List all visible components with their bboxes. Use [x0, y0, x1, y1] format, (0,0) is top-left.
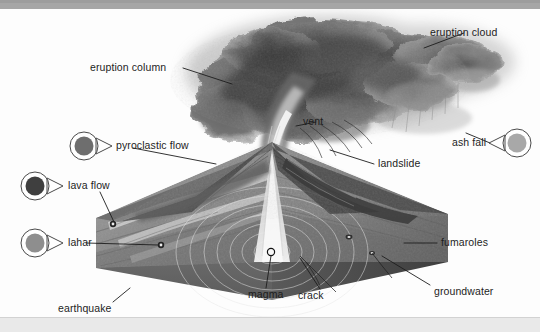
label-earthquake: earthquake	[58, 303, 112, 314]
label-fumaroles: fumaroles	[441, 237, 488, 248]
volcano-diagram-figure: eruption cloud eruption column vent land…	[0, 0, 540, 332]
pyroclastic-flow-swatch	[75, 137, 94, 156]
lava-flow-source	[110, 221, 116, 227]
label-landslide: landslide	[378, 158, 420, 169]
leader-earthquake	[113, 288, 130, 302]
label-crack: crack	[298, 290, 324, 301]
label-groundwater: groundwater	[434, 286, 493, 297]
ash-fall-swatch	[508, 134, 527, 153]
lahar-source	[158, 242, 164, 248]
label-eruption-cloud: eruption cloud	[430, 27, 497, 38]
diagram-canvas	[0, 0, 540, 332]
bottom-border-bar	[0, 318, 540, 332]
lahar-swatch	[26, 234, 45, 253]
hazard-marker-ash-fall[interactable]	[489, 129, 531, 157]
top-border-shade	[0, 0, 540, 3]
lava-flow-swatch	[26, 177, 45, 196]
label-vent: vent	[303, 116, 323, 127]
label-lava-flow: lava flow	[68, 180, 110, 191]
hazard-marker-lahar[interactable]	[21, 229, 63, 257]
label-magma: magma	[248, 289, 284, 300]
leader-landslide	[330, 150, 374, 164]
label-pyroclastic-flow: pyroclastic flow	[116, 140, 189, 151]
label-eruption-column: eruption column	[90, 62, 166, 73]
label-ash-fall: ash fall	[452, 137, 486, 148]
hazard-marker-lava-flow[interactable]	[21, 172, 63, 200]
label-lahar: lahar	[68, 237, 92, 248]
hazard-marker-pyroclastic-flow[interactable]	[70, 132, 112, 160]
